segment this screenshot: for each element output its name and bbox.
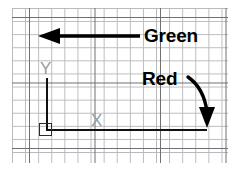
y-axis-label: Y <box>40 60 51 77</box>
green-annotation-label: Green <box>144 26 198 45</box>
x-axis-label: X <box>91 112 102 129</box>
red-annotation-label: Red <box>142 69 177 88</box>
ucs-origin-marker <box>39 123 52 136</box>
x-axis-line <box>46 129 207 131</box>
diagram-canvas: Y X Green Red <box>0 0 243 171</box>
